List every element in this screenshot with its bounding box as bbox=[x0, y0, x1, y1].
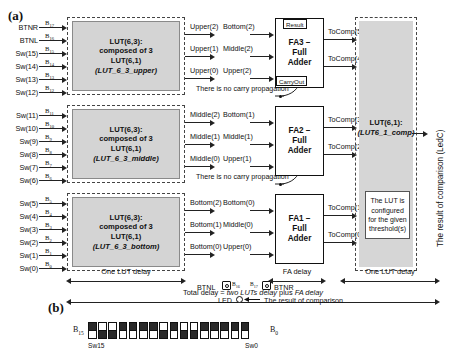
signal-label-upper0: Upper(0) bbox=[190, 66, 218, 75]
dip-switch[interactable] bbox=[139, 322, 148, 339]
fa3-input-label: Upper(2) bbox=[223, 66, 251, 75]
switch-bottom-half bbox=[221, 331, 228, 338]
lut-middle-block[interactable]: LUT(6,3): composed of 3 LUT(6,1) (LUT_6_… bbox=[72, 109, 180, 179]
dip-switch[interactable] bbox=[231, 322, 240, 339]
led-pointer-arrow bbox=[244, 293, 262, 305]
signal-arrow bbox=[185, 119, 215, 126]
switch-top-half bbox=[160, 323, 167, 331]
dip-switch[interactable] bbox=[170, 322, 179, 339]
fa3-input-label: Middle(2) bbox=[223, 44, 253, 53]
switch-bottom-half bbox=[211, 331, 218, 338]
signal-arrow bbox=[250, 53, 274, 60]
signal-arrow bbox=[324, 151, 357, 158]
dip-switch[interactable] bbox=[88, 322, 97, 339]
signal-label-middle2: Middle(2) bbox=[190, 110, 220, 119]
fa1-input-label: Upper(0) bbox=[223, 242, 251, 251]
signal-label-upper2: Upper(2) bbox=[190, 22, 218, 31]
signal-label-bottom1: Bottom(1) bbox=[190, 220, 222, 229]
input-row: Sw(15) B15 bbox=[8, 46, 69, 60]
input-label: Sw(15) bbox=[8, 49, 38, 58]
signal-arrow bbox=[250, 251, 274, 258]
input-label: Sw(10) bbox=[8, 124, 38, 133]
switch-top-half bbox=[242, 323, 249, 331]
comparison-result-label: The result of comparison (LedC) bbox=[436, 130, 445, 247]
fa3-carryout-tag: CarryOut bbox=[276, 76, 307, 86]
lut-upper-block[interactable]: LUT(6,3): composed of 3 LUT(6,1) (LUT_6_… bbox=[72, 21, 180, 91]
lut-bottom-block[interactable]: LUT(6,3): composed of 3 LUT(6,1) (LUT_6_… bbox=[72, 197, 180, 267]
btnl-bit-label: B16 bbox=[232, 281, 240, 289]
switch-top-half bbox=[120, 323, 127, 331]
input-wire: B5 bbox=[39, 200, 69, 207]
input-wire: B11 bbox=[39, 112, 69, 119]
full-adder-fa2[interactable]: FA2 – Full Adder bbox=[275, 106, 324, 176]
input-row: Sw(6) B6 bbox=[8, 173, 69, 187]
switch-bottom-half bbox=[109, 331, 116, 338]
switch-bottom-half bbox=[232, 331, 239, 338]
bit-signal-label: B9 bbox=[45, 133, 52, 142]
dip-switch[interactable] bbox=[210, 322, 219, 339]
signal-arrow bbox=[185, 75, 215, 82]
input-label: Sw(8) bbox=[8, 150, 38, 159]
input-wire: B10 bbox=[39, 125, 69, 132]
lut-title-line: composed of 3 bbox=[99, 134, 153, 144]
switch-bottom-half bbox=[191, 331, 198, 338]
dip-switch[interactable] bbox=[119, 322, 128, 339]
bit-signal-label: B0 bbox=[45, 260, 52, 269]
delay-label: One LUT delay bbox=[66, 267, 186, 276]
switch-bottom-half bbox=[150, 331, 157, 338]
dip-switch[interactable] bbox=[220, 322, 229, 339]
switch-bottom-half bbox=[171, 331, 178, 338]
input-wire: B7 bbox=[39, 164, 69, 171]
signal-arrow bbox=[250, 141, 274, 148]
signal-arrow bbox=[185, 251, 215, 258]
signal-arrow bbox=[250, 119, 274, 126]
switch-top-half bbox=[109, 323, 116, 331]
dip-switch[interactable] bbox=[98, 322, 107, 339]
lut-title-line: LUT(6,3): bbox=[110, 37, 143, 47]
dip-switch[interactable] bbox=[200, 322, 209, 339]
dip-switch[interactable] bbox=[241, 322, 250, 339]
switch-bottom-half bbox=[140, 331, 147, 338]
input-wire: B2 bbox=[39, 239, 69, 246]
comparator-note: The LUT is configured for the given thre… bbox=[365, 191, 410, 239]
switch-top-half bbox=[181, 323, 188, 331]
input-wire: B12 bbox=[39, 89, 69, 96]
signal-arrow bbox=[250, 31, 274, 38]
input-wire: B14 bbox=[39, 63, 69, 70]
switch-top-half bbox=[201, 323, 208, 331]
bit-signal-label: B17 bbox=[45, 19, 54, 28]
bit-signal-label: B12 bbox=[45, 84, 54, 93]
full-adder-fa1[interactable]: FA1 – Full Adder bbox=[275, 194, 324, 264]
fa-name-line: Adder bbox=[288, 146, 312, 156]
btnl-button-icon[interactable] bbox=[222, 281, 231, 290]
dip-switch[interactable] bbox=[190, 322, 199, 339]
signal-arrow bbox=[324, 212, 357, 219]
switch-bottom-half bbox=[181, 331, 188, 338]
input-label: Sw(4) bbox=[8, 212, 38, 221]
signal-arrow bbox=[250, 207, 274, 214]
dip-switch[interactable] bbox=[149, 322, 158, 339]
bit-signal-label: B3 bbox=[45, 221, 52, 230]
input-wire: B15 bbox=[39, 50, 69, 57]
signal-label-middle0: Middle(0) bbox=[190, 154, 220, 163]
signal-label-middle1: Middle(1) bbox=[190, 132, 220, 141]
comparator-title: LUT(6,1): (LUT6_1_comp) bbox=[357, 118, 415, 138]
panel-b-label: (b) bbox=[48, 300, 64, 316]
input-label: Sw(14) bbox=[8, 62, 38, 71]
fa2-input-label: Bottom(1) bbox=[223, 110, 255, 119]
input-row: BTNR B17 bbox=[8, 20, 69, 34]
fa-name-line: Full bbox=[292, 224, 307, 234]
signal-arrow bbox=[185, 163, 215, 170]
fa-name-line: FA3 – bbox=[289, 38, 311, 48]
bit-signal-label: B6 bbox=[45, 172, 52, 181]
bit-signal-label: B15 bbox=[45, 45, 54, 54]
input-row: Sw(13) B13 bbox=[8, 72, 69, 86]
lut-title-line: LUT(6,1) bbox=[111, 56, 141, 66]
dip-switch[interactable] bbox=[180, 322, 189, 339]
bit-signal-label: B13 bbox=[45, 71, 54, 80]
dip-switch[interactable] bbox=[108, 322, 117, 339]
switch-bank[interactable] bbox=[88, 322, 249, 339]
dip-switch[interactable] bbox=[159, 322, 168, 339]
btnr-button-icon[interactable] bbox=[262, 281, 271, 290]
dip-switch[interactable] bbox=[129, 322, 138, 339]
